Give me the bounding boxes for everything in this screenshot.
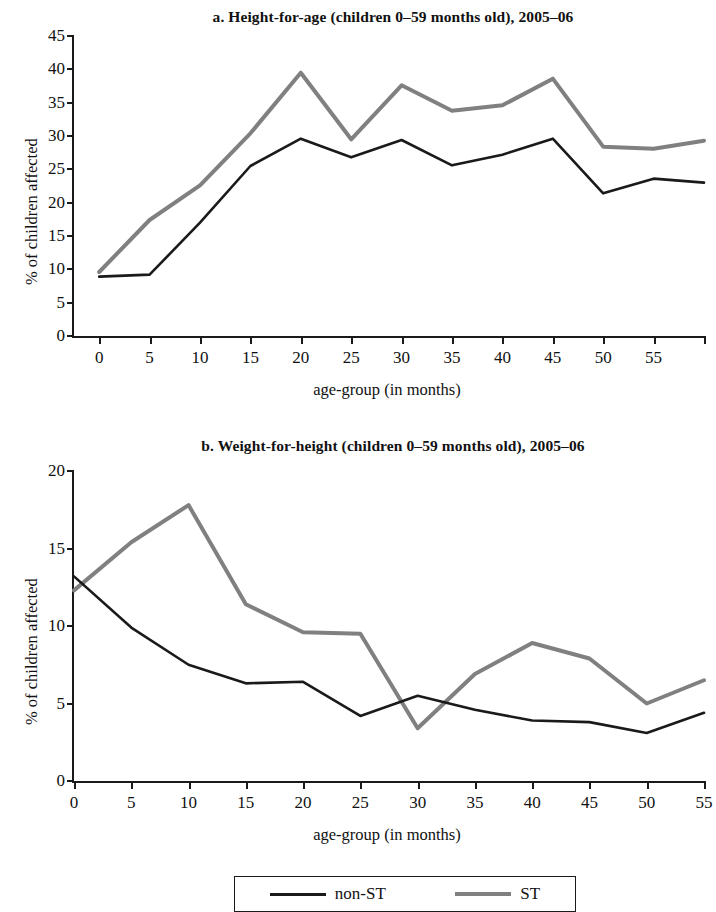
x-tick-mark: [131, 781, 133, 789]
x-tick-mark: [360, 781, 362, 789]
x-tick-label: 45: [544, 348, 561, 368]
x-tick-label: 35: [444, 348, 461, 368]
x-tick-mark: [532, 781, 534, 789]
x-tick-mark: [475, 781, 477, 789]
y-tick-mark: [67, 68, 74, 70]
x-tick-label: 0: [95, 348, 104, 368]
chart-a-x-axis-title: age-group (in months): [313, 380, 461, 400]
x-tick-mark: [74, 781, 76, 789]
y-tick-mark: [67, 335, 74, 337]
x-tick-mark: [246, 781, 248, 789]
y-tick-label: 15: [48, 539, 65, 559]
x-tick-mark: [301, 336, 303, 344]
x-tick-mark: [303, 781, 305, 789]
x-tick-label: 15: [242, 348, 259, 368]
x-tick-mark: [418, 781, 420, 789]
x-tick-label: 40: [494, 348, 511, 368]
x-tick-mark: [189, 781, 191, 789]
y-tick-mark: [67, 35, 74, 37]
y-tick-label: 20: [48, 461, 65, 481]
x-tick-label: 10: [192, 348, 209, 368]
x-tick-label: 50: [638, 793, 655, 813]
y-tick-mark: [67, 168, 74, 170]
chart-b-plot-area: 05101520 0510152025303540455055: [72, 471, 704, 783]
legend-line-swatch-st: [455, 892, 511, 896]
y-tick-mark: [67, 102, 74, 104]
chart-b-line-st: [74, 505, 704, 728]
y-tick-mark: [67, 268, 74, 270]
x-tick-mark: [452, 336, 454, 344]
y-tick-mark: [67, 470, 74, 472]
x-tick-label: 25: [352, 793, 369, 813]
y-tick-label: 25: [48, 159, 65, 179]
y-tick-label: 5: [57, 293, 66, 313]
x-tick-mark: [250, 336, 252, 344]
chart-a-y-axis-title: % of children affected: [22, 138, 42, 285]
y-tick-mark: [67, 780, 74, 782]
chart-a-line-non-st: [99, 139, 704, 277]
x-tick-label: 55: [645, 348, 662, 368]
x-tick-mark: [704, 336, 706, 344]
y-tick-mark: [67, 202, 74, 204]
x-tick-mark: [704, 781, 706, 789]
chart-b-lines: [74, 471, 704, 781]
x-tick-label: 25: [343, 348, 360, 368]
chart-b-x-axis-title: age-group (in months): [313, 825, 461, 845]
y-tick-label: 45: [48, 26, 65, 46]
y-tick-label: 30: [48, 126, 65, 146]
x-tick-mark: [654, 336, 656, 344]
y-tick-label: 20: [48, 193, 65, 213]
legend-label-non-st: non-ST: [335, 884, 386, 904]
y-tick-label: 0: [57, 771, 66, 791]
y-tick-mark: [67, 703, 74, 705]
chart-legend: non-ST ST: [234, 876, 576, 912]
x-tick-label: 5: [145, 348, 154, 368]
x-tick-label: 20: [292, 348, 309, 368]
y-tick-mark: [67, 548, 74, 550]
x-tick-label: 50: [595, 348, 612, 368]
x-tick-mark: [603, 336, 605, 344]
x-tick-label: 15: [237, 793, 254, 813]
chart-panel-a: a. Height-for-age (children 0–59 months …: [0, 0, 716, 420]
x-tick-label: 40: [524, 793, 541, 813]
chart-a-line-st: [99, 73, 704, 272]
y-tick-label: 40: [48, 59, 65, 79]
legend-line-swatch-non-st: [270, 893, 326, 896]
x-tick-label: 20: [295, 793, 312, 813]
x-tick-mark: [647, 781, 649, 789]
x-tick-label: 30: [409, 793, 426, 813]
y-tick-label: 5: [57, 694, 66, 714]
y-tick-mark: [67, 135, 74, 137]
x-tick-mark: [553, 336, 555, 344]
legend-label-st: ST: [520, 884, 540, 904]
x-tick-label: 0: [70, 793, 79, 813]
x-tick-mark: [200, 336, 202, 344]
x-tick-label: 55: [696, 793, 713, 813]
x-tick-label: 5: [127, 793, 136, 813]
x-tick-label: 30: [393, 348, 410, 368]
y-tick-label: 35: [48, 93, 65, 113]
y-tick-label: 15: [48, 226, 65, 246]
chart-b-title: b. Weight-for-height (children 0–59 mont…: [70, 437, 716, 455]
chart-a-lines: [74, 36, 704, 336]
x-tick-label: 35: [466, 793, 483, 813]
y-tick-mark: [67, 235, 74, 237]
x-tick-mark: [589, 781, 591, 789]
x-tick-mark: [402, 336, 404, 344]
y-tick-label: 10: [48, 259, 65, 279]
x-tick-mark: [502, 336, 504, 344]
legend-item-st: ST: [455, 884, 540, 904]
chart-b-y-axis-title: % of children affected: [22, 578, 42, 725]
chart-b-line-non-st: [74, 576, 704, 733]
x-tick-mark: [99, 336, 101, 344]
figure-page: a. Height-for-age (children 0–59 months …: [0, 0, 716, 912]
x-tick-mark: [150, 336, 152, 344]
chart-a-plot-area: 051015202530354045 051015202530354045505…: [72, 36, 704, 338]
x-tick-label: 45: [581, 793, 598, 813]
y-tick-label: 10: [48, 616, 65, 636]
legend-item-non-st: non-ST: [270, 884, 386, 904]
x-tick-mark: [351, 336, 353, 344]
y-tick-mark: [67, 302, 74, 304]
x-tick-label: 10: [180, 793, 197, 813]
chart-a-title: a. Height-for-age (children 0–59 months …: [70, 8, 716, 26]
